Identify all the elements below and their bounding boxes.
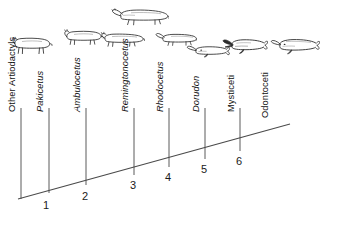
taxon-label-odontoceti: Odontoceti bbox=[260, 72, 270, 118]
taxon-label-pakicetus: Pakicetus bbox=[35, 71, 45, 112]
node-number-6: 6 bbox=[236, 155, 242, 167]
node-numbers: 1 2 3 4 5 6 bbox=[43, 155, 242, 211]
node-number-4: 4 bbox=[165, 171, 171, 183]
taxon-label-ambulocetus: Ambulocetus bbox=[72, 57, 82, 112]
cladogram-backbone bbox=[18, 124, 290, 199]
node-number-1: 1 bbox=[43, 199, 49, 211]
taxon-label-dorudon: Dorudon bbox=[191, 76, 201, 112]
cladogram-canvas: 1 2 3 4 5 6 bbox=[0, 0, 341, 226]
node-number-3: 3 bbox=[130, 179, 136, 191]
node-number-5: 5 bbox=[201, 163, 207, 175]
taxon-label-remingtonocetus: Remingtonocetus bbox=[120, 38, 130, 112]
taxon-label-mysticeti: Mysticeti bbox=[226, 75, 236, 112]
node-number-2: 2 bbox=[82, 190, 88, 202]
taxon-label-other-artiodactyls: Other Artiodactyls bbox=[7, 37, 17, 112]
taxon-label-rhodocetus: Rhodocetus bbox=[155, 61, 165, 112]
